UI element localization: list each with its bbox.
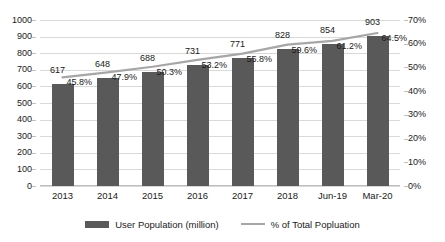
- percent-axis-tick-label: 10%: [408, 158, 426, 167]
- percent-axis-tick-label: 20%: [408, 134, 426, 143]
- percent-axis-tick-label: 50%: [408, 63, 426, 72]
- bar-value-label: 771: [224, 40, 252, 49]
- percent-axis-tick-label: 60%: [408, 39, 426, 48]
- y-axis-tick-label: 100: [17, 165, 32, 174]
- percent-axis-tick-label: 40%: [408, 87, 426, 96]
- percent-value-label: 55.8%: [247, 55, 273, 64]
- y-axis-tick-mark: [32, 103, 36, 104]
- y-axis-tick-mark: [32, 186, 36, 187]
- y-axis-tick-mark: [32, 136, 36, 137]
- y-axis-tick-mark: [32, 53, 36, 54]
- legend-item-user-population[interactable]: User Population (million): [85, 219, 218, 230]
- percent-value-label: 64.5%: [382, 34, 408, 43]
- percent-axis-tick-label: 30%: [408, 110, 426, 119]
- y-axis-tick-mark: [32, 153, 36, 154]
- bar-value-label: 688: [134, 54, 162, 63]
- right-percent-axis: 0%10%20%30%40%50%60%70%: [404, 20, 444, 186]
- percent-value-label: 61.2%: [337, 42, 363, 51]
- bar-value-label: 854: [314, 26, 342, 35]
- percent-axis-tick-mark: [404, 44, 408, 45]
- category-label: Mar-20: [355, 190, 400, 202]
- y-axis-tick-label: 400: [17, 115, 32, 124]
- percent-axis-tick-label: 0%: [408, 182, 421, 191]
- y-axis-tick-mark: [32, 86, 36, 87]
- percent-value-label: 47.9%: [112, 73, 138, 82]
- category-label: 2018: [265, 190, 310, 202]
- category-label: Jun-19: [310, 190, 355, 202]
- percent-value-label: 50.3%: [157, 68, 183, 77]
- y-axis-tick-label: 700: [17, 65, 32, 74]
- percent-axis-tick-mark: [404, 67, 408, 68]
- bar-value-label: 903: [359, 18, 387, 27]
- category-labels: 201320142015201620172018Jun-19Mar-20: [40, 190, 400, 206]
- line-swatch-icon: [241, 223, 265, 225]
- percent-axis-tick-label: 70%: [408, 16, 426, 25]
- percent-axis-tick-mark: [404, 139, 408, 140]
- y-axis-tick-mark: [32, 169, 36, 170]
- plot-area: 617648688731771828854903 45.8%47.9%50.3%…: [40, 20, 400, 186]
- percent-axis-tick-mark: [404, 20, 408, 21]
- category-label: 2016: [175, 190, 220, 202]
- percent-value-label: 45.8%: [67, 78, 93, 87]
- y-axis-tick-label: 600: [17, 82, 32, 91]
- y-axis-tick-label: 300: [17, 132, 32, 141]
- category-label: 2015: [130, 190, 175, 202]
- left-value-axis: 01002003004005006007008009001000: [0, 20, 36, 186]
- bar-value-label: 828: [269, 31, 297, 40]
- y-axis-tick-mark: [32, 37, 36, 38]
- y-axis-tick-label: 800: [17, 49, 32, 58]
- percent-line[interactable]: [63, 33, 378, 77]
- gridline: [40, 186, 400, 187]
- legend-item-percent-of-total[interactable]: % of Total Popluation: [241, 219, 360, 230]
- bar-swatch-icon: [85, 221, 109, 228]
- category-label: 2013: [40, 190, 85, 202]
- y-axis-tick-label: 200: [17, 148, 32, 157]
- y-axis-tick-mark: [32, 120, 36, 121]
- percent-axis-tick-mark: [404, 162, 408, 163]
- chart-legend: User Population (million) % of Total Pop…: [0, 214, 445, 234]
- percent-axis-tick-mark: [404, 186, 408, 187]
- category-label: 2014: [85, 190, 130, 202]
- y-axis-tick-label: 500: [17, 99, 32, 108]
- percent-axis-tick-mark: [404, 91, 408, 92]
- y-axis-tick-label: 1000: [12, 16, 32, 25]
- y-axis-tick-label: 900: [17, 32, 32, 41]
- percent-value-label: 53.2%: [202, 61, 228, 70]
- combo-chart: 01002003004005006007008009001000 0%10%20…: [0, 0, 445, 242]
- y-axis-tick-mark: [32, 70, 36, 71]
- percent-axis-tick-mark: [404, 115, 408, 116]
- legend-label: % of Total Popluation: [271, 219, 360, 230]
- legend-label: User Population (million): [115, 219, 218, 230]
- percent-value-label: 59.6%: [292, 46, 318, 55]
- category-label: 2017: [220, 190, 265, 202]
- bar-value-label: 617: [44, 66, 72, 75]
- bar-value-label: 731: [179, 47, 207, 56]
- y-axis-tick-mark: [32, 20, 36, 21]
- bar-value-label: 648: [89, 60, 117, 69]
